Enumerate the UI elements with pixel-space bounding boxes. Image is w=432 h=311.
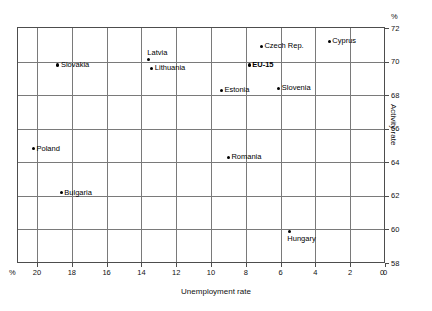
y-axis-tick-label: 70 [391, 57, 409, 66]
gridline-vertical [107, 28, 108, 262]
data-point-label: Latvia [147, 48, 167, 57]
data-point-label: Poland [37, 144, 60, 153]
data-point-marker [248, 63, 251, 66]
y-axis-tick-label: 72 [391, 24, 409, 33]
x-axis-title: Unemployment rate [0, 287, 432, 296]
y-axis-tick [385, 62, 389, 63]
x-axis-tick [246, 263, 247, 267]
x-axis-tick [211, 263, 212, 267]
data-point-marker [227, 156, 230, 159]
data-point-label: Bulgaria [64, 188, 92, 197]
data-point-marker [220, 89, 223, 92]
x-axis-origin-label: 0 [380, 268, 384, 277]
x-axis-tick-label: 6 [271, 268, 291, 277]
y-axis-tick [385, 95, 389, 96]
y-axis-title: Activity rate [389, 104, 398, 145]
y-axis-tick-label: 62 [391, 191, 409, 200]
gridline-horizontal [18, 229, 384, 230]
gridline-horizontal [18, 95, 384, 96]
y-axis-tick [385, 229, 389, 230]
data-point-label: Hungary [287, 234, 315, 243]
y-axis-tick [385, 196, 389, 197]
data-point-label: Romania [231, 152, 261, 161]
data-point-label: Estonia [224, 85, 249, 94]
x-axis-tick-label: 16 [97, 268, 117, 277]
x-axis-percent-symbol: % [9, 268, 16, 277]
gridline-vertical [315, 28, 316, 262]
y-axis-tick-label: 68 [391, 91, 409, 100]
y-axis-tick-label: 64 [391, 158, 409, 167]
x-axis-tick-label: 0 [375, 268, 395, 277]
scatter-chart-figure: 20181614121086420 5860626466687072 % % 0… [0, 0, 432, 311]
x-axis-tick-label: 4 [305, 268, 325, 277]
y-axis-tick [385, 162, 389, 163]
data-point-marker [60, 191, 63, 194]
y-axis-percent-symbol: % [391, 12, 398, 21]
x-axis-tick [141, 263, 142, 267]
x-axis-tick-label: 14 [131, 268, 151, 277]
y-axis-tick-label: 58 [391, 259, 409, 268]
data-point-label: Slovenia [282, 83, 311, 92]
gridline-horizontal [18, 162, 384, 163]
gridline-horizontal [18, 129, 384, 130]
x-axis-tick-label: 20 [27, 268, 47, 277]
x-axis-tick-label: 8 [236, 268, 256, 277]
x-axis-tick [281, 263, 282, 267]
x-axis-tick [37, 263, 38, 267]
x-axis-tick-label: 12 [166, 268, 186, 277]
x-axis-tick [315, 263, 316, 267]
data-point-label: Cyprus [332, 36, 356, 45]
data-point-label: Lithuania [155, 63, 185, 72]
data-point-marker [328, 40, 331, 43]
y-axis-tick [385, 263, 389, 264]
gridline-vertical [211, 28, 212, 262]
x-axis-tick [107, 263, 108, 267]
x-axis-tick-label: 2 [340, 268, 360, 277]
x-axis-tick [72, 263, 73, 267]
data-point-label: EU-15 [252, 60, 273, 69]
gridline-vertical [281, 28, 282, 262]
gridline-vertical [141, 28, 142, 262]
x-axis-tick-label: 18 [62, 268, 82, 277]
data-point-marker [288, 230, 291, 233]
x-axis-tick-label: 10 [201, 268, 221, 277]
data-point-label: Slovakia [61, 60, 89, 69]
x-axis-tick [350, 263, 351, 267]
x-axis-tick [176, 263, 177, 267]
gridline-vertical [350, 28, 351, 262]
y-axis-tick-label: 60 [391, 225, 409, 234]
data-point-label: Czech Rep. [264, 41, 303, 50]
gridline-vertical [246, 28, 247, 262]
y-axis-tick [385, 28, 389, 29]
